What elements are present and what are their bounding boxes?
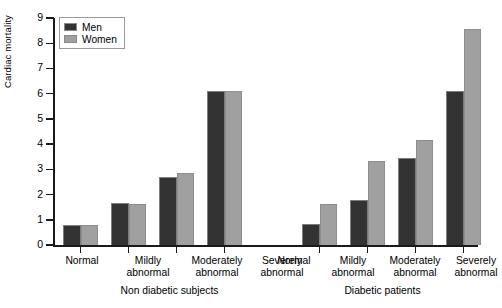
bar-women-normal-diabetic-patients [320, 204, 338, 245]
x-tick-mark [176, 246, 177, 253]
bar-men-mildly-abnormal-non-diabetic-subjects [111, 203, 129, 245]
legend-item-women: Women [64, 33, 117, 45]
x-tick-mark [224, 246, 225, 253]
x-tick-mark [80, 246, 81, 253]
legend-label-men: Men [82, 22, 102, 33]
y-tick-label: 3 [0, 162, 43, 174]
legend-swatch-men-icon [64, 23, 77, 31]
bar-women-moderately-abnormal-non-diabetic-subjects [177, 173, 195, 245]
bar-men-normal-diabetic-patients [302, 224, 320, 245]
x-tick-mark [415, 246, 416, 253]
y-tick-mark [46, 244, 54, 246]
y-tick-mark [46, 68, 54, 70]
x-tick-mark [463, 246, 464, 253]
category-label-normal-nondiabetic: Normal [46, 255, 118, 267]
y-tick-label: 1 [0, 213, 43, 225]
bar-men-severely-abnormal-non-diabetic-subjects [207, 91, 225, 245]
y-tick-mark [46, 219, 54, 221]
bar-men-moderately-abnormal-non-diabetic-subjects [159, 177, 177, 245]
y-tick-mark [46, 118, 54, 120]
y-tick-label: 4 [0, 137, 43, 149]
legend-label-women: Women [82, 34, 117, 45]
bar-women-severely-abnormal-non-diabetic-subjects [225, 91, 243, 245]
bar-women-mildly-abnormal-non-diabetic-subjects [129, 204, 147, 245]
bar-women-severely-abnormal-diabetic-patients [464, 29, 482, 245]
y-tick-label: 6 [0, 87, 43, 99]
bar-men-severely-abnormal-diabetic-patients [446, 91, 464, 245]
legend-item-men: Men [64, 21, 117, 33]
bar-men-normal-non-diabetic-subjects [63, 225, 81, 245]
y-tick-label: 7 [0, 61, 43, 73]
y-tick-mark [46, 194, 54, 196]
y-tick-mark [46, 17, 54, 19]
bar-women-normal-non-diabetic-subjects [81, 225, 99, 245]
category-label-severely-diabetic: Severelyabnormal [437, 255, 502, 279]
y-tick-mark [46, 43, 54, 45]
y-tick-mark [46, 169, 54, 171]
group-title-diabetic: Diabetic patients [275, 285, 490, 296]
plot-area [54, 18, 478, 245]
bar-women-moderately-abnormal-diabetic-patients [416, 140, 434, 245]
bar-men-mildly-abnormal-diabetic-patients [350, 200, 368, 245]
y-tick-mark [46, 93, 54, 95]
y-tick-label: 5 [0, 112, 43, 124]
legend: Men Women [59, 17, 125, 49]
y-tick-label: 8 [0, 36, 43, 48]
legend-swatch-women-icon [64, 35, 77, 43]
y-tick-label: 2 [0, 188, 43, 200]
y-tick-mark [46, 143, 54, 145]
x-tick-mark [319, 246, 320, 253]
bar-women-mildly-abnormal-diabetic-patients [368, 161, 386, 245]
x-tick-mark [128, 246, 129, 253]
category-label-mildly-nondiabetic: Mildlyabnormal [112, 255, 184, 279]
x-tick-mark [367, 246, 368, 253]
bar-men-moderately-abnormal-diabetic-patients [398, 158, 416, 245]
y-tick-label: 0 [0, 238, 43, 250]
group-title-non-diabetic: Non diabetic subjects [62, 285, 277, 296]
y-tick-label: 9 [0, 11, 43, 23]
